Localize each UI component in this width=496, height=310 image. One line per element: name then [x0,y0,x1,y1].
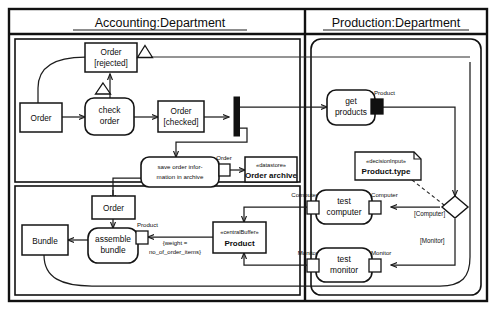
pin-assemble-bundle-in [136,231,148,244]
node-product-buffer-stereotype: «centralBuffer» [220,229,258,235]
node-product-buffer-label: Product [224,239,255,248]
node-bundle-label: Bundle [32,237,58,246]
constraint-line1: {weight = [163,240,188,246]
node-bundle[interactable]: Bundle [22,225,68,255]
node-order-archive-stereotype: «datastore» [256,162,286,168]
pin-test-computer-in [369,201,381,214]
node-assemble-bundle-label1: assemble [95,234,131,244]
edge-note-to-decision [412,180,444,205]
node-order-checked-label: Order [171,107,192,116]
node-test-monitor-label1: test [337,254,351,264]
pin-label-test-computer-in: Computer [371,191,398,198]
node-assemble-bundle[interactable]: assemble bundle [88,228,138,263]
node-test-computer-label1: test [337,196,351,206]
pin-label-save-order-out: Order [216,154,232,161]
pin-get-products-out [371,99,383,114]
node-order-checked[interactable]: Order [checked] [158,101,204,132]
node-decision-input-note: «decisionInput» Product.type [355,152,421,180]
node-get-products[interactable]: get products [327,90,375,125]
node-order-input-label: Order [31,114,52,123]
note-stereotype: «decisionInput» [366,158,406,164]
node-order-rejected-state: [rejected] [94,59,128,68]
node-order-mid-label: Order [103,204,124,213]
pin-test-monitor-in [369,259,381,272]
node-order-input[interactable]: Order [20,103,62,132]
pin-label-test-monitor-out: Monitor [298,249,318,256]
node-test-monitor[interactable]: test monitor [316,248,372,282]
node-order-mid[interactable]: Order [92,196,135,219]
pin-label-get-products-out: Product [374,89,395,96]
guard-label-monitor: [Monitor] [420,237,445,245]
edge-testcomputer-to-buffer [244,207,307,222]
node-get-products-label1: get [345,96,357,106]
node-order-rejected[interactable]: Order [rejected] [85,43,137,72]
node-test-computer[interactable]: test computer [316,190,372,224]
node-save-order-information[interactable]: save order infor- mation in archive [141,157,219,187]
node-save-order-label1: save order infor- [157,163,202,170]
unmarshall-triangle-icon-check [96,83,111,94]
pin-test-computer-out [307,201,319,214]
node-order-rejected-label: Order [101,48,122,57]
constraint-line2: no_of_order_items} [149,249,201,255]
uml-activity-diagram: Accounting:Department Production:Departm… [0,0,496,310]
node-test-monitor-label2: monitor [330,265,358,275]
node-order-archive-label: Order archive [245,171,298,180]
node-check-order[interactable]: check order [85,98,134,135]
node-check-order-label1: check [99,105,122,115]
node-save-order-label2: mation in archive [157,173,204,180]
node-get-products-label2: products [335,107,367,117]
pin-save-order-out [219,164,230,176]
pin-label-test-monitor-in: Monitor [371,249,391,256]
note-label: Product.type [362,167,411,176]
decision-diamond[interactable] [442,196,468,218]
pin-test-monitor-out [307,259,319,272]
node-order-archive[interactable]: «datastore» Order archive [245,157,298,182]
pin-label-test-computer-out: Computer [291,191,318,198]
node-product-central-buffer[interactable]: «centralBuffer» Product [213,222,266,253]
diagram-canvas: Accounting:Department Production:Departm… [0,0,496,310]
edge-rejected-loopback [38,57,85,105]
unmarshall-triangle-icon-rejected [138,46,153,58]
node-assemble-bundle-label2: bundle [100,245,125,255]
pin-label-assemble-bundle-in: Product [137,221,158,228]
fork-bar [234,97,240,136]
partition-label-accounting: Accounting:Department [95,16,226,30]
edge-save-down [113,178,141,196]
partition-label-production: Production:Department [332,16,461,30]
node-order-checked-state: [checked] [163,118,198,127]
guard-label-computer: [Computer] [414,210,445,218]
node-test-computer-label2: computer [327,207,362,217]
node-check-order-label2: order [100,116,120,126]
